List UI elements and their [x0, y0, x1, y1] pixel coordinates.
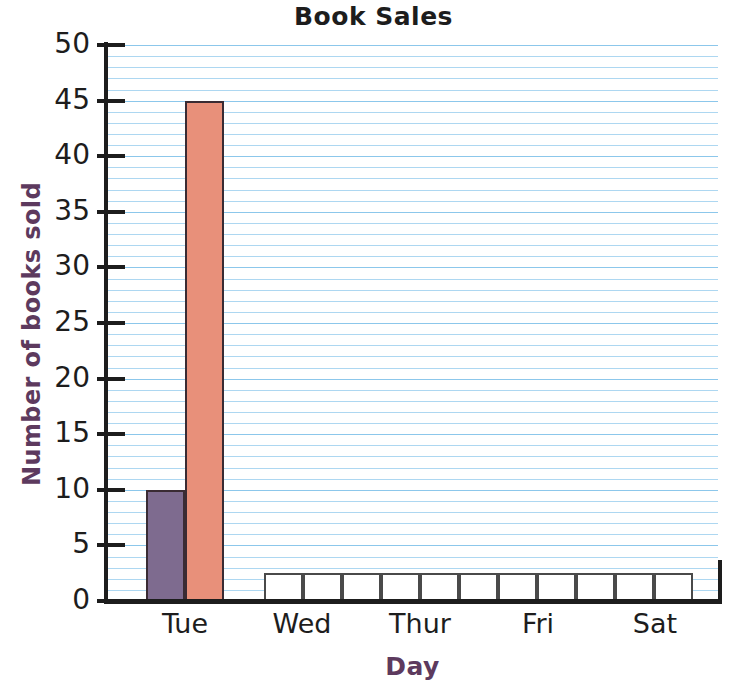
- y-axis-tick: [97, 599, 125, 603]
- x-axis-category-label: Fri: [478, 610, 598, 637]
- x-axis-category-label: Thur: [360, 610, 480, 637]
- x-axis-category-label: Sat: [595, 610, 715, 637]
- x-axis-line: [104, 599, 721, 604]
- bar-placeholder: [615, 573, 654, 601]
- gridline: [107, 67, 718, 68]
- y-axis-tick: [97, 154, 125, 158]
- y-axis-tick-label: 30: [20, 252, 90, 280]
- y-axis-tick-label: 45: [20, 86, 90, 114]
- bar-placeholder: [420, 573, 459, 601]
- y-axis-tick-label: 50: [20, 30, 90, 58]
- y-axis-tick-label: 10: [20, 475, 90, 503]
- bar-placeholder: [303, 573, 342, 601]
- bar-tue-1: [146, 490, 185, 601]
- bar-placeholder: [576, 573, 615, 601]
- bar-placeholder: [459, 573, 498, 601]
- x-axis-right-cap: [718, 560, 722, 604]
- chart-title: Book Sales: [0, 2, 747, 31]
- y-axis-tick-label: 15: [20, 419, 90, 447]
- y-axis-tick: [97, 432, 125, 436]
- y-axis-tick: [97, 99, 125, 103]
- bar-placeholder: [264, 573, 303, 601]
- y-axis-tick-label: 20: [20, 364, 90, 392]
- bar-placeholder: [342, 573, 381, 601]
- bar-tue-2: [185, 101, 224, 601]
- x-axis-label: Day: [107, 652, 718, 681]
- y-axis-tick: [97, 43, 125, 47]
- y-axis-tick-label: 40: [20, 141, 90, 169]
- y-axis-tick: [97, 488, 125, 492]
- y-axis-tick: [97, 265, 125, 269]
- gridline: [107, 56, 718, 57]
- bar-placeholder: [498, 573, 537, 601]
- gridline: [107, 78, 718, 79]
- plot-area: [107, 45, 718, 601]
- y-axis-tick: [97, 210, 125, 214]
- bar-placeholder: [537, 573, 576, 601]
- y-axis-tick-label: 5: [20, 530, 90, 558]
- y-axis-tick-label: 25: [20, 308, 90, 336]
- y-axis-tick: [97, 377, 125, 381]
- y-axis-tick: [97, 321, 125, 325]
- gridline: [107, 45, 718, 46]
- bar-placeholder: [654, 573, 693, 601]
- y-axis-tick-label: 35: [20, 197, 90, 225]
- x-axis-category-label: Tue: [125, 610, 245, 637]
- y-axis-tick-label: 0: [20, 586, 90, 614]
- y-axis-tick: [97, 543, 125, 547]
- gridline: [107, 90, 718, 91]
- x-axis-category-label: Wed: [242, 610, 362, 637]
- bar-placeholder: [381, 573, 420, 601]
- bar-chart: Book Sales Number of books sold Day 5045…: [0, 0, 747, 690]
